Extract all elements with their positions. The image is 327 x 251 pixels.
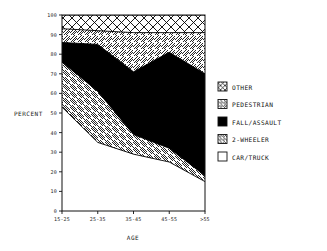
legend-label-2-wheeler: 2-WHEELER — [232, 136, 269, 143]
x-tick-label: 15-25 — [54, 216, 70, 222]
legend-swatch-car-truck — [218, 152, 227, 161]
y-axis-label: PERCENT — [14, 110, 43, 117]
y-tick-label: 60 — [51, 90, 57, 96]
plot-area — [62, 15, 205, 211]
legend-label-other: OTHER — [232, 84, 253, 91]
legend-swatch-other — [218, 82, 227, 91]
y-tick-label: 70 — [51, 71, 57, 77]
y-tick-label: 0 — [54, 208, 57, 214]
x-tick-label: 25-35 — [90, 216, 106, 222]
y-tick-label: 10 — [51, 188, 57, 194]
x-tick-label: 35-45 — [125, 216, 141, 222]
stacked-area-chart: 0102030405060708090100 15-2525-3535-4545… — [0, 0, 327, 251]
y-tick-label: 40 — [51, 130, 57, 136]
legend-swatch-fall-assault — [218, 117, 227, 126]
y-tick-label: 50 — [51, 110, 57, 116]
y-tick-label: 90 — [51, 32, 57, 38]
y-tick-label: 30 — [51, 149, 57, 155]
x-tick-label: 45-55 — [161, 216, 177, 222]
legend-swatch-2-wheeler — [218, 135, 227, 144]
x-tick-label: >55 — [200, 216, 210, 222]
legend-label-fall-assault: FALL/ASSAULT — [232, 119, 282, 126]
y-tick-label: 20 — [51, 169, 57, 175]
x-axis-label: AGE — [127, 234, 139, 241]
chart-figure: 0102030405060708090100 15-2525-3535-4545… — [0, 0, 327, 251]
legend-label-car-truck: CAR/TRUCK — [232, 154, 269, 161]
y-tick-label: 100 — [47, 12, 57, 18]
legend-swatch-pedestrian — [218, 100, 227, 109]
legend-label-pedestrian: PEDESTRIAN — [232, 101, 273, 108]
y-tick-label: 80 — [51, 51, 57, 57]
